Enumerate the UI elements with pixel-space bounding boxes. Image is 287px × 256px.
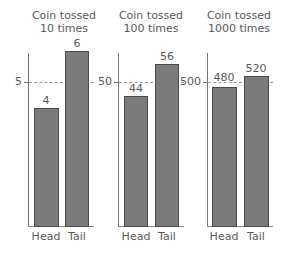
bar-tail	[244, 76, 269, 227]
title-line-2: 1000 times	[189, 22, 287, 35]
category-label-tail: Tail	[236, 231, 276, 243]
value-label-tail: 520	[236, 63, 276, 74]
panel-title: Coin tossed 1000 times	[189, 9, 287, 35]
y-tick-label: 500	[171, 76, 201, 87]
panel-1000-tosses: Coin tossed 1000 times 500 480 520 Head …	[0, 0, 287, 256]
title-line-1: Coin tossed	[189, 9, 287, 22]
bar-head	[212, 87, 237, 227]
